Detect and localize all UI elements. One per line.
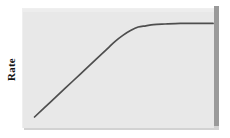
rate-chart-figure: Rate: [0, 0, 230, 138]
y-axis-label: Rate: [6, 58, 17, 81]
plot-area: [23, 9, 215, 129]
rate-curve-line: [35, 23, 214, 117]
plot-panel: [22, 8, 214, 128]
y-axis-label-container: Rate: [0, 0, 22, 138]
